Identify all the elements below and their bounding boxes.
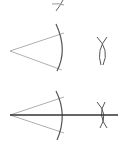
- diagram-canvas: [0, 0, 127, 142]
- step-arcs: [10, 24, 107, 71]
- top-arc-crossing: [52, 0, 64, 11]
- arc-tail-a: [56, 0, 63, 11]
- upper-ray: [10, 33, 64, 51]
- lower-ray: [10, 115, 64, 133]
- upper-ray: [10, 97, 64, 115]
- arc-tail-b: [52, 4, 64, 5]
- vertex-arc: [56, 24, 62, 71]
- step-bisector: [10, 91, 118, 140]
- angle-bisector-diagram: [0, 0, 127, 142]
- lower-ray: [10, 51, 62, 70]
